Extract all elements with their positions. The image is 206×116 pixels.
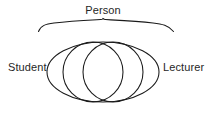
lecturer-label: Lecturer	[163, 61, 204, 73]
student-label: Student	[8, 61, 47, 73]
lecturer-circle	[83, 42, 143, 102]
diagram-canvas: Person Student Lecturer	[0, 0, 206, 116]
person-label: Person	[0, 4, 206, 16]
person-brace-icon	[39, 18, 174, 31]
venn-diagram-graphic	[0, 0, 206, 116]
person-ellipse	[47, 42, 159, 102]
student-circle	[63, 42, 123, 102]
